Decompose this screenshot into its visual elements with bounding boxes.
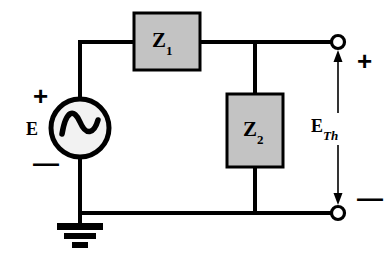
ground-bar-1 — [57, 223, 103, 230]
source-label: E — [26, 120, 38, 138]
output-minus-sign: — — [357, 185, 383, 211]
output-voltage-symbol: E — [311, 116, 323, 136]
ground-bar-2 — [64, 233, 96, 239]
source-plus-sign: + — [33, 83, 48, 109]
output-voltage-label: ETh — [311, 117, 338, 139]
output-plus-sign: + — [357, 48, 372, 74]
earth-ground-icon — [57, 213, 103, 248]
eth-arrowhead-up — [334, 50, 343, 62]
impedance-z2-subscript: 2 — [257, 132, 264, 147]
impedance-z2-symbol: Z — [243, 117, 257, 141]
eth-arrowhead-down — [334, 193, 343, 205]
source-minus-sign: — — [33, 150, 59, 176]
impedance-z1-label: Z1 — [152, 30, 173, 54]
circuit-diagram: Z1 Z2 E + — ETh + — — [0, 0, 390, 256]
ac-voltage-source-symbol — [51, 99, 109, 157]
impedance-z1-symbol: Z — [152, 28, 166, 52]
wiring — [80, 42, 335, 213]
ground-bar-3 — [72, 242, 88, 248]
output-voltage-subscript: Th — [323, 128, 338, 143]
bottom-output-terminal — [332, 207, 345, 220]
top-output-terminal — [332, 36, 345, 49]
impedance-z1-subscript: 1 — [166, 43, 173, 58]
impedance-z2-label: Z2 — [243, 119, 264, 143]
